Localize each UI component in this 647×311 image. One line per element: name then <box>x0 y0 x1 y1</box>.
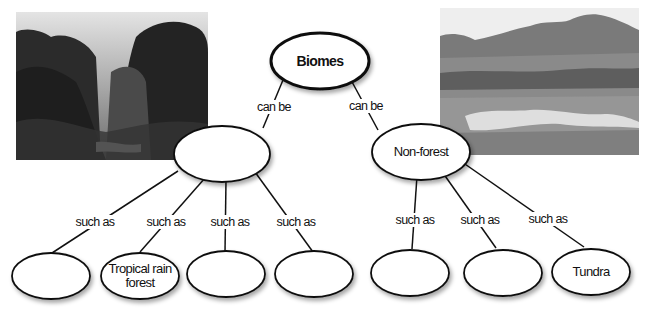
branch-node-nonforest-label: Non-forest <box>394 145 449 159</box>
link-label-such-as: such as <box>459 213 502 227</box>
link-label-can-be: can be <box>347 99 385 113</box>
root-node-label: Biomes <box>297 54 344 68</box>
node-forest-blank <box>174 126 270 182</box>
leaf-node-tropical-rain-forest: Tropical rain forest <box>108 262 171 290</box>
link-label-such-as: such as <box>209 215 252 229</box>
link-label-such-as: such as <box>275 215 318 229</box>
link-label-such-as: such as <box>527 212 570 226</box>
leaf-node-tundra: Tundra <box>572 265 609 279</box>
link-label-such-as: such as <box>74 215 117 229</box>
link-label-such-as: such as <box>394 213 437 227</box>
leaf-node-line-2: forest <box>108 276 171 290</box>
link-label-can-be: can be <box>255 100 293 114</box>
link-label-such-as: such as <box>145 215 188 229</box>
leaf-node-line-1: Tropical rain <box>108 262 171 276</box>
concept-map <box>0 0 647 311</box>
